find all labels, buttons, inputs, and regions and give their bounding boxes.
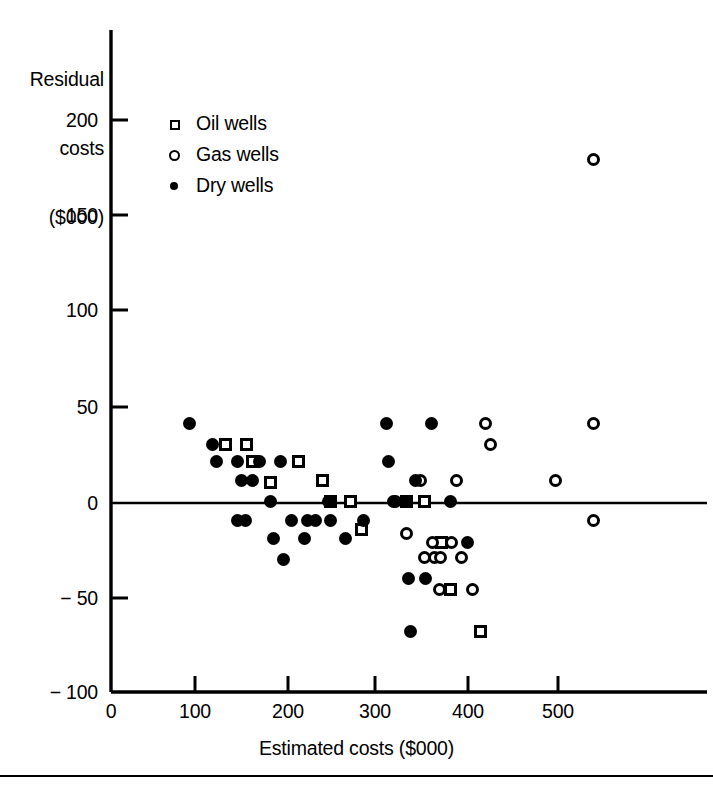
data-point-oil-well xyxy=(219,438,232,451)
data-point-dry-well xyxy=(285,514,298,527)
y-tick-label-neg50: − 50 xyxy=(8,587,98,610)
data-point-dry-well xyxy=(400,495,413,508)
data-point-gas-well xyxy=(400,527,413,540)
y-tick-label-150: 150 xyxy=(8,204,98,227)
legend-item-gas-wells: Gas wells xyxy=(168,139,279,170)
data-point-dry-well xyxy=(298,532,311,545)
x-tick-label-300: 300 xyxy=(345,700,405,723)
data-point-gas-well xyxy=(484,438,497,451)
data-point-dry-well xyxy=(253,455,266,468)
y-tick-label-0: 0 xyxy=(8,492,98,515)
open-circle-icon xyxy=(168,148,182,162)
data-point-dry-well xyxy=(444,495,457,508)
data-point-oil-well xyxy=(264,476,277,489)
data-point-gas-well xyxy=(587,514,600,527)
x-tick-label-500: 500 xyxy=(528,700,588,723)
y-tick-label-100: 100 xyxy=(8,299,98,322)
data-point-oil-well xyxy=(240,438,253,451)
data-point-gas-well xyxy=(549,474,562,487)
data-point-oil-well xyxy=(444,583,457,596)
legend-item-dry-wells: Dry wells xyxy=(168,170,279,201)
open-square-icon xyxy=(168,117,182,131)
data-point-dry-well xyxy=(324,514,337,527)
footer-rule xyxy=(0,775,713,777)
data-point-oil-well xyxy=(474,625,487,638)
filled-circle-icon xyxy=(168,179,182,193)
data-point-dry-well xyxy=(309,514,322,527)
scatter-plot-figure: Residual costs ($000) 200 150 100 5 xyxy=(0,0,713,785)
legend-label-oil-wells: Oil wells xyxy=(196,112,267,135)
data-point-dry-well xyxy=(231,455,244,468)
data-point-dry-well xyxy=(357,514,370,527)
data-point-oil-well xyxy=(418,495,431,508)
x-tick-label-0: 0 xyxy=(81,700,141,723)
legend-label-gas-wells: Gas wells xyxy=(196,143,279,166)
x-tick-label-200: 200 xyxy=(258,700,318,723)
data-point-gas-well xyxy=(587,153,600,166)
data-point-dry-well xyxy=(246,474,259,487)
data-point-dry-well xyxy=(210,455,223,468)
data-point-gas-well xyxy=(433,583,446,596)
y-tick-label-50: 50 xyxy=(8,396,98,419)
x-axis-label: Estimated costs ($000) xyxy=(0,737,713,760)
x-tick-label-400: 400 xyxy=(438,700,498,723)
data-point-dry-well xyxy=(322,495,335,508)
data-point-oil-well xyxy=(292,455,305,468)
y-axis-ticks xyxy=(111,120,128,598)
data-point-dry-well xyxy=(425,417,438,430)
x-axis-ticks xyxy=(195,676,558,692)
legend-label-dry-wells: Dry wells xyxy=(196,174,273,197)
plot-axes xyxy=(0,0,713,785)
data-point-oil-well xyxy=(316,474,329,487)
data-point-dry-well xyxy=(380,417,393,430)
data-point-oil-well xyxy=(344,495,357,508)
data-point-dry-well xyxy=(239,514,252,527)
legend-item-oil-wells: Oil wells xyxy=(168,108,279,139)
data-point-dry-well xyxy=(404,625,417,638)
x-tick-label-100: 100 xyxy=(165,700,225,723)
data-point-dry-well xyxy=(382,455,395,468)
data-point-dry-well xyxy=(264,495,277,508)
y-tick-label-200: 200 xyxy=(8,109,98,132)
chart-legend: Oil wells Gas wells Dry wells xyxy=(168,108,279,201)
